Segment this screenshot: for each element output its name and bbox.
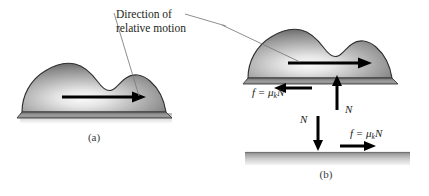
leader-line-to-panel-b-segment2: [222, 25, 300, 62]
friction-figure: Direction of relative motion f = μkN N N…: [0, 0, 429, 196]
direction-of-relative-motion-label: Direction of relative motion: [116, 8, 228, 35]
panel-a-caption: (a): [74, 131, 114, 143]
equals-sign: =: [255, 86, 268, 98]
panel-b-caption: (b): [306, 168, 346, 180]
normal-symbol: N: [277, 86, 284, 98]
friction-on-block-label: f = μkN: [252, 86, 284, 100]
normal-on-surface-label: N: [300, 113, 307, 125]
equals-sign: =: [353, 127, 366, 139]
friction-on-surface-label: f = μkN: [350, 127, 382, 141]
normal-symbol: N: [375, 127, 382, 139]
normal-on-block-label: N: [345, 103, 352, 115]
